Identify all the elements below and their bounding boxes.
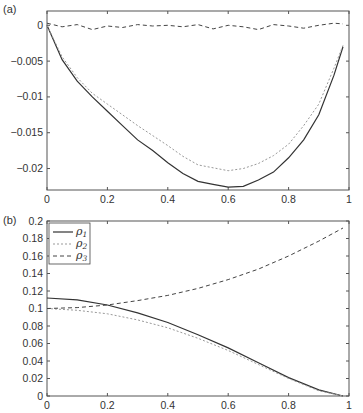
x-tick-label: 0.6	[221, 193, 236, 205]
plot-a: 00.20.40.60.810−0.005−0.01−0.015−0.02	[11, 11, 353, 205]
y-tick-label: 0.06	[23, 337, 44, 349]
axes-frame	[47, 221, 349, 396]
x-tick-label: 0	[44, 193, 50, 205]
y-tick-label: 0	[37, 390, 43, 402]
series-line-dotted	[47, 25, 343, 170]
y-tick-label: 0.12	[23, 285, 44, 297]
x-tick-label: 1	[346, 399, 352, 411]
y-tick-label: 0.02	[23, 372, 44, 384]
x-tick-label: 0.2	[100, 399, 115, 411]
x-tick-label: 0.4	[160, 193, 175, 205]
series-line-dashed	[47, 23, 343, 29]
x-tick-label: 0	[44, 399, 50, 411]
series-line-solid	[47, 298, 343, 396]
y-tick-label: −0.015	[11, 126, 44, 138]
panel-b-label: (b)	[3, 214, 16, 226]
y-tick-label: 0	[37, 19, 43, 31]
panel-a-label: (a)	[3, 3, 16, 15]
y-tick-label: 0.08	[23, 320, 44, 332]
series-line-solid	[47, 25, 343, 187]
x-tick-label: 0.4	[160, 399, 175, 411]
y-tick-label: 0.14	[23, 267, 44, 279]
series-line-dotted	[47, 309, 343, 397]
y-tick-label: −0.005	[11, 55, 44, 67]
y-tick-label: 0.2	[28, 215, 43, 227]
y-tick-label: 0.04	[23, 355, 44, 367]
y-tick-label: −0.02	[16, 162, 43, 174]
figure: (a) 00.20.40.60.810−0.005−0.01−0.015−0.0…	[0, 0, 363, 413]
x-tick-label: 0.2	[100, 193, 115, 205]
axes-frame	[47, 11, 349, 190]
y-tick-label: 0.16	[23, 250, 44, 262]
y-tick-label: 0.1	[28, 302, 43, 314]
x-tick-label: 0.8	[281, 193, 296, 205]
x-tick-label: 1	[346, 193, 352, 205]
series-line-dashed	[47, 228, 343, 309]
x-tick-label: 0.6	[221, 399, 236, 411]
y-tick-label: 0.18	[23, 232, 44, 244]
x-tick-label: 0.8	[281, 399, 296, 411]
y-tick-label: −0.01	[16, 90, 43, 102]
legend: ρ1 ρ2 ρ3	[49, 223, 90, 264]
